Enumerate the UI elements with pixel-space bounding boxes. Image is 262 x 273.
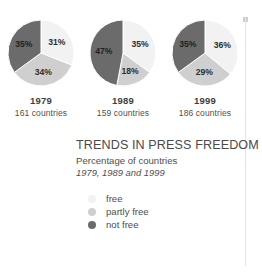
legend-swatch-icon bbox=[88, 208, 96, 216]
chart-title: TRENDS IN PRESS FREEDOM bbox=[76, 138, 244, 152]
pie-svg-1979: 31%34%35% bbox=[4, 18, 78, 90]
pie-country-count: 161 countries bbox=[15, 108, 67, 118]
pie-country-count: 159 countries bbox=[97, 108, 149, 118]
chart-subtitle-years: 1979, 1989 and 1999 bbox=[76, 167, 244, 178]
legend-item-not-free: not free bbox=[88, 218, 149, 231]
pie-chart-row: 31%34%35%1979161 countries35%18%47%19891… bbox=[0, 18, 248, 118]
legend-label: not free bbox=[106, 219, 139, 230]
legend-label: free bbox=[106, 193, 123, 204]
pie-chart-1999: 36%29%35%1999186 countries bbox=[164, 18, 246, 118]
legend-swatch-icon bbox=[88, 221, 96, 229]
pie-svg-1989: 35%18%47% bbox=[86, 18, 160, 90]
slice-label: 31% bbox=[48, 37, 66, 47]
caption-block: TRENDS IN PRESS FREEDOM Percentage of co… bbox=[76, 138, 244, 178]
pie-chart-1989: 35%18%47%1989159 countries bbox=[82, 18, 164, 118]
legend-item-partly-free: partly free bbox=[88, 205, 149, 218]
legend-item-free: free bbox=[88, 192, 149, 205]
slice-label: 35% bbox=[15, 39, 33, 49]
pie-year-label: 1989 bbox=[112, 95, 134, 106]
pie-svg-1999: 36%29%35% bbox=[168, 18, 242, 90]
legend-swatch-icon bbox=[88, 195, 96, 203]
slice-label: 47% bbox=[95, 46, 113, 56]
pie-chart-1979: 31%34%35%1979161 countries bbox=[0, 18, 82, 118]
slice-label: 35% bbox=[179, 39, 197, 49]
pie-year-label: 1979 bbox=[30, 95, 52, 106]
legend-label: partly free bbox=[106, 206, 149, 217]
chart-subtitle: Percentage of countries bbox=[76, 155, 244, 166]
pie-year-label: 1999 bbox=[194, 95, 216, 106]
slice-label: 36% bbox=[214, 40, 232, 50]
legend: freepartly freenot free bbox=[88, 192, 149, 231]
slice-label: 34% bbox=[35, 67, 53, 77]
slice-label: 18% bbox=[121, 66, 139, 76]
slice-label: 35% bbox=[131, 39, 149, 49]
slice-label: 29% bbox=[196, 67, 214, 77]
pie-country-count: 186 countries bbox=[179, 108, 231, 118]
